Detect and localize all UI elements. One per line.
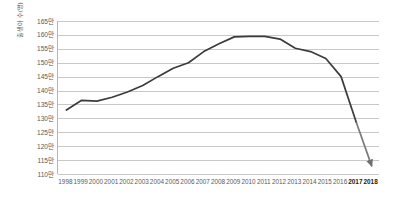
x-axis-tick-label: 2007 — [196, 177, 210, 186]
x-axis-tick-label: 2006 — [180, 177, 194, 186]
y-axis-tick-label: 140만 — [20, 87, 54, 94]
y-axis-tick-label: 135만 — [20, 101, 54, 108]
x-axis-tick-label: 2001 — [104, 177, 118, 186]
y-axis-tick-label: 110만 — [20, 171, 54, 178]
y-axis-tick-label: 120만 — [20, 143, 54, 150]
y-axis-tick-label: 150만 — [20, 59, 54, 66]
series-solid-segment — [66, 36, 356, 122]
x-axis-tick-label: 2014 — [302, 177, 316, 186]
plot-area — [57, 21, 379, 174]
series-projection-segment — [356, 123, 371, 166]
x-axis-tick-label: 2011 — [257, 177, 271, 186]
y-axis-tick-label: 160만 — [20, 31, 54, 38]
x-axis-tick-label: 2005 — [165, 177, 179, 186]
y-axis-tick-label: 145만 — [20, 73, 54, 80]
x-axis-tick-label: 2008 — [211, 177, 225, 186]
x-axis-tick-label: 2004 — [150, 177, 164, 186]
x-axis-tick-label: 2010 — [241, 177, 255, 186]
x-axis-tick-labels: 1998199920002001200220032004200520062007… — [57, 177, 379, 189]
line-chart: 출생아 수(명) 165만160만155만150만145만140만135만130… — [0, 0, 396, 203]
x-axis-tick-label: 2015 — [318, 177, 332, 186]
x-axis-tick-label: 2012 — [272, 177, 286, 186]
x-axis-tick-label: 2017 — [348, 177, 362, 186]
y-axis-tick-label: 130만 — [20, 115, 54, 122]
x-axis-tick-label: 2009 — [226, 177, 240, 186]
x-axis-tick-label: 2000 — [89, 177, 103, 186]
y-axis-tick-label: 165만 — [20, 18, 54, 25]
y-axis-tick-label: 125만 — [20, 129, 54, 136]
x-axis-tick-label: 2003 — [135, 177, 149, 186]
x-axis-tick-label: 2013 — [287, 177, 301, 186]
y-axis-tick-labels: 165만160만155만150만145만140만135만130만125만120만… — [22, 21, 56, 174]
x-axis-tick-label: 2002 — [119, 177, 133, 186]
x-axis-tick-label: 2016 — [333, 177, 347, 186]
x-axis-tick-label: 2018 — [363, 177, 377, 186]
data-series-line — [58, 21, 380, 174]
gridline — [58, 174, 379, 175]
x-axis-tick-label: 1998 — [58, 177, 72, 186]
y-axis-tick-label: 115만 — [20, 157, 54, 164]
x-axis-tick-label: 1999 — [74, 177, 88, 186]
y-axis-tick-label: 155만 — [20, 45, 54, 52]
